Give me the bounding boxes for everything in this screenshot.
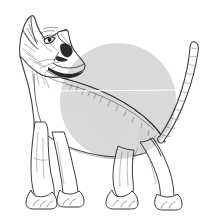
figure-root: Cat line drawing with grey circle overla… bbox=[0, 0, 213, 221]
cat-illustration-canvas bbox=[0, 0, 213, 221]
grey-circle-overlay bbox=[60, 43, 176, 159]
